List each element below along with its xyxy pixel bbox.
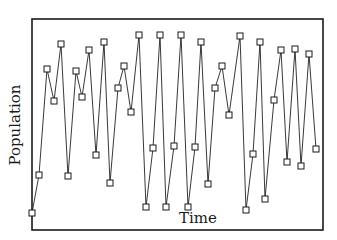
data-point-marker bbox=[250, 151, 256, 157]
data-point-marker bbox=[101, 39, 107, 45]
data-point-marker bbox=[128, 109, 134, 115]
data-point-marker bbox=[284, 159, 290, 165]
data-point-marker bbox=[292, 46, 298, 52]
data-point-marker bbox=[115, 85, 121, 91]
data-point-marker bbox=[257, 39, 263, 45]
data-point-marker bbox=[306, 51, 312, 57]
data-point-marker bbox=[262, 196, 268, 202]
data-point-marker bbox=[150, 145, 156, 151]
population-time-chart: Time Population bbox=[0, 0, 337, 240]
data-point-marker bbox=[171, 143, 177, 149]
data-point-marker bbox=[79, 94, 85, 100]
data-point-marker bbox=[226, 112, 232, 118]
data-point-marker bbox=[73, 68, 79, 74]
data-point-marker bbox=[178, 32, 184, 38]
data-point-marker bbox=[51, 98, 57, 104]
data-point-marker bbox=[298, 163, 304, 169]
data-point-marker bbox=[121, 63, 127, 69]
data-point-marker bbox=[278, 47, 284, 53]
data-point-marker bbox=[29, 210, 35, 216]
data-point-marker bbox=[243, 207, 249, 213]
data-point-marker bbox=[313, 146, 319, 152]
data-point-marker bbox=[44, 66, 50, 72]
data-point-marker bbox=[205, 181, 211, 187]
y-axis-label: Population bbox=[6, 84, 24, 165]
data-point-markers bbox=[29, 32, 319, 216]
data-point-marker bbox=[157, 32, 163, 38]
population-series-line bbox=[32, 35, 316, 213]
x-axis-label: Time bbox=[179, 209, 217, 227]
data-point-marker bbox=[36, 172, 42, 178]
data-point-marker bbox=[237, 33, 243, 39]
data-point-marker bbox=[198, 39, 204, 45]
data-point-marker bbox=[212, 85, 218, 91]
data-point-marker bbox=[136, 32, 142, 38]
data-point-marker bbox=[86, 47, 92, 53]
data-point-marker bbox=[93, 152, 99, 158]
data-point-marker bbox=[192, 144, 198, 150]
data-point-marker bbox=[65, 173, 71, 179]
data-point-marker bbox=[107, 180, 113, 186]
data-point-marker bbox=[219, 63, 225, 69]
data-point-marker bbox=[143, 204, 149, 210]
data-point-marker bbox=[271, 97, 277, 103]
data-point-marker bbox=[58, 41, 64, 47]
data-point-marker bbox=[163, 204, 169, 210]
